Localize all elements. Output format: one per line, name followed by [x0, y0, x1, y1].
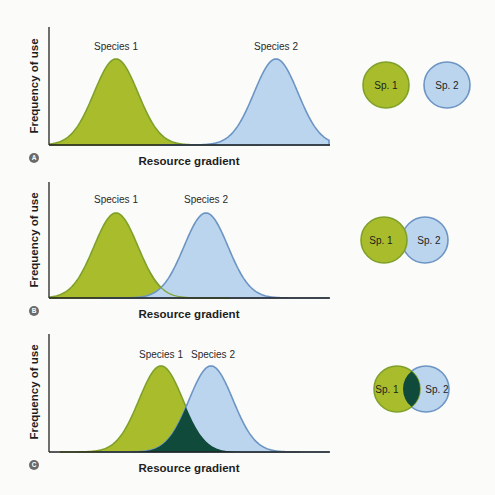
- species-1-label: Species 1: [94, 194, 138, 205]
- x-axis-label: Resource gradient: [139, 308, 240, 320]
- panel-badge: A: [29, 153, 39, 163]
- panel-a: Species 1 Species 2 Frequency of use Res…: [28, 27, 470, 167]
- panel-badge: B: [29, 306, 39, 316]
- species-1-curve: [50, 59, 260, 145]
- x-axis-label: Resource gradient: [139, 155, 240, 167]
- x-axis-label: Resource gradient: [139, 462, 240, 474]
- sp2-circle-label: Sp. 2: [425, 384, 449, 395]
- svg-text:A: A: [32, 154, 37, 161]
- svg-text:B: B: [32, 307, 37, 314]
- sp1-circle-label: Sp. 1: [369, 235, 393, 246]
- sp2-circle-label: Sp. 2: [435, 80, 459, 91]
- y-axis-label: Frequency of use: [28, 38, 40, 133]
- species-2-curve: [160, 59, 329, 145]
- panel-b: Species 1 Species 2 Frequency of use Res…: [28, 182, 448, 320]
- sp2-circle-label: Sp. 2: [417, 235, 441, 246]
- y-axis-label: Frequency of use: [28, 344, 40, 439]
- species-1-label: Species 1: [139, 349, 183, 360]
- species-2-label: Species 2: [191, 349, 235, 360]
- species-1-label: Species 1: [94, 41, 138, 52]
- panel-badge: C: [29, 460, 39, 470]
- species-2-label: Species 2: [254, 41, 298, 52]
- panel-c: Species 1 Species 2 Frequency of use Res…: [28, 334, 449, 474]
- niche-overlap-figure: Species 1 Species 2 Frequency of use Res…: [0, 0, 495, 495]
- species-2-label: Species 2: [184, 194, 228, 205]
- sp1-circle-label: Sp. 1: [375, 384, 399, 395]
- y-axis-label: Frequency of use: [28, 192, 40, 287]
- sp1-circle-label: Sp. 1: [374, 80, 398, 91]
- svg-text:C: C: [32, 461, 37, 468]
